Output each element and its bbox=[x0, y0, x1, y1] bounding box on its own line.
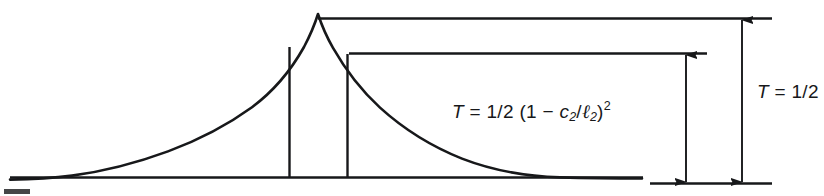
transmission-curve-path bbox=[10, 14, 642, 180]
inner-label-symbol: T bbox=[452, 101, 464, 122]
transmission-curve-figure bbox=[0, 0, 824, 196]
inner-label-numerator: c bbox=[559, 101, 569, 122]
figure-container: T = 1/2 (1 − c2/ℓ2)2 T = 1/2 bbox=[0, 0, 824, 196]
clipped-caption-fragment bbox=[4, 189, 30, 194]
inner-label-denominator: ℓ bbox=[582, 101, 590, 122]
inner-label-value-prefix: 1/2 (1 bbox=[487, 101, 537, 122]
outer-label-equals: = bbox=[775, 81, 786, 102]
inner-label-equals: = bbox=[470, 101, 481, 122]
inner-label-close-paren: ) bbox=[597, 101, 604, 122]
outer-measure-label: T = 1/2 bbox=[757, 82, 819, 101]
outer-label-symbol: T bbox=[757, 81, 769, 102]
outer-label-value: 1/2 bbox=[792, 81, 819, 102]
inner-label-minus: − bbox=[542, 101, 553, 122]
inner-label-exponent: 2 bbox=[604, 99, 611, 113]
inner-measure-label: T = 1/2 (1 − c2/ℓ2)2 bbox=[452, 100, 611, 124]
